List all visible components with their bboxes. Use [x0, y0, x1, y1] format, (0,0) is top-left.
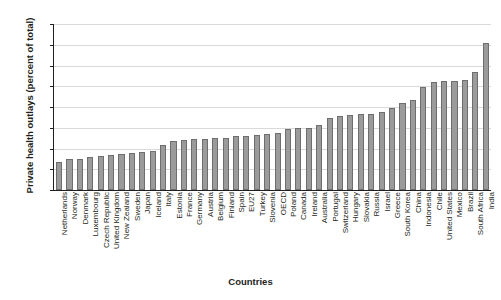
x-axis-tick-label: Netherlands [55, 192, 61, 274]
bar [202, 139, 208, 190]
bar [181, 140, 187, 190]
x-axis-tick-label: Sweden [128, 192, 134, 274]
bar [98, 156, 104, 190]
x-axis-tick-label: New Zealand [117, 192, 123, 274]
x-axis-tick-label: Finland [222, 192, 228, 274]
bar [399, 103, 405, 190]
x-axis-tick-label: Canada [294, 192, 300, 274]
x-axis-tick-label: Iceland [149, 192, 155, 274]
x-axis-tick-label: France [180, 192, 186, 274]
bar [275, 133, 281, 190]
x-axis-tick-label: OECD [274, 192, 280, 274]
x-axis-tick-label: Brazil [461, 192, 467, 274]
x-axis-tick-label: EU27 [242, 192, 248, 274]
chart-container: Private health outlays (percent of total… [0, 0, 501, 300]
x-axis-tick-label: Mexico [450, 192, 456, 274]
x-axis-tick-label: Greece [388, 192, 394, 274]
bar [191, 139, 197, 190]
x-axis-tick-label: Germany [190, 192, 196, 274]
bar [306, 128, 312, 190]
x-axis-tick-label: Israel [378, 192, 384, 274]
bar [327, 118, 333, 190]
x-axis-tick-label: Denmark [76, 192, 82, 274]
x-axis-tick-labels: NetherlandsNorwayDenmarkLuxembourgCzech … [53, 192, 490, 274]
bar [77, 159, 83, 190]
x-axis-tick-label: Turkey [253, 192, 259, 274]
bar [462, 80, 468, 190]
bar [316, 125, 322, 190]
x-axis-tick-label: South Africa [471, 192, 477, 274]
x-axis-tick-label: Hungary [346, 192, 352, 274]
bar [389, 108, 395, 190]
bar [410, 100, 416, 190]
bar [379, 112, 385, 190]
x-axis-tick-label: Belgium [211, 192, 217, 274]
bar [441, 81, 447, 190]
x-axis-tick-label: China [409, 192, 415, 274]
x-axis-tick-label: Australia [315, 192, 321, 274]
x-axis-tick-label-text: India [488, 192, 496, 209]
bar [160, 145, 166, 190]
x-axis-tick-label: Luxembourg [86, 192, 92, 274]
x-axis-tick-label: Spain [232, 192, 238, 274]
bar [264, 134, 270, 190]
bar [66, 159, 72, 190]
x-axis-tick-label: Slovenia [263, 192, 269, 274]
bar [139, 152, 145, 190]
bar [358, 114, 364, 190]
x-axis-tick-label: Portugal [326, 192, 332, 274]
bar [212, 138, 218, 190]
x-axis-tick-label: United States [440, 192, 446, 274]
bar [347, 115, 353, 190]
x-axis-tick-label: Czech Republic [97, 192, 103, 274]
bar [223, 138, 229, 190]
x-axis-tick-label: South Korea [398, 192, 404, 274]
bar [243, 136, 249, 190]
bar [431, 82, 437, 190]
x-axis-tick-label: Switzerland [336, 192, 342, 274]
bar [337, 116, 343, 190]
x-axis-tick-label: Italy [159, 192, 165, 274]
y-axis-tick [50, 190, 54, 191]
bar [483, 43, 489, 190]
x-axis-tick-label: Chile [430, 192, 436, 274]
bar [118, 154, 124, 190]
bar [87, 157, 93, 190]
x-axis-tick-label: Japan [138, 192, 144, 274]
bar [108, 155, 114, 190]
bar [150, 151, 156, 190]
x-axis-tick-label: Indonesia [419, 192, 425, 274]
bar [170, 141, 176, 190]
x-axis-tick-label: Austria [201, 192, 207, 274]
x-axis-tick-label: Slovakia [357, 192, 363, 274]
bar [451, 81, 457, 190]
bar [285, 129, 291, 190]
y-axis-title: Private health outlays (percent of total… [24, 6, 35, 206]
bar-series [54, 24, 491, 190]
bar [368, 114, 374, 190]
bar [56, 162, 62, 190]
bar [472, 72, 478, 190]
x-axis-tick-label: Estonia [169, 192, 175, 274]
bar [233, 136, 239, 190]
x-axis-tick-label: United Kingdom [107, 192, 113, 274]
bar [129, 153, 135, 190]
x-axis-tick-label: Poland [284, 192, 290, 274]
x-axis-title: Countries [0, 276, 501, 287]
bar [420, 87, 426, 190]
x-axis-tick-label: Russia [367, 192, 373, 274]
x-axis-tick-label: India [482, 192, 488, 274]
x-axis-tick-label: Ireland [305, 192, 311, 274]
bar [295, 128, 301, 190]
plot-area: 01020304050607080 [53, 24, 491, 190]
bar [254, 135, 260, 190]
x-axis-tick-label: Norway [65, 192, 71, 274]
